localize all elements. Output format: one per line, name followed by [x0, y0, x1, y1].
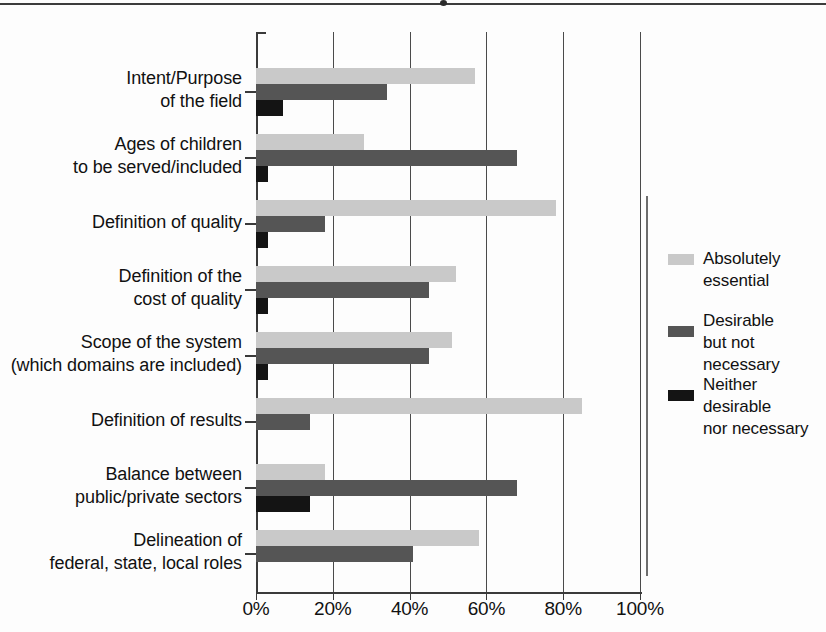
category-label: Ages of children to be served/included	[0, 133, 242, 179]
category-tick	[245, 289, 256, 291]
category-label: Definition of results	[0, 409, 242, 432]
bar	[256, 166, 268, 182]
category-tick	[245, 355, 256, 357]
x-axis-line	[256, 592, 642, 594]
bar	[256, 134, 364, 150]
horizontal-bar-chart: 0%20%40%60%80%100% Intent/Purpose of the…	[0, 0, 826, 632]
legend-label: Absolutely essential	[703, 248, 818, 292]
x-axis-tick-label: 20%	[314, 598, 351, 620]
category-tick	[245, 157, 256, 159]
category-label: Intent/Purpose of the field	[0, 67, 242, 113]
bar	[256, 496, 310, 512]
legend-swatch	[668, 326, 694, 337]
legend-divider	[646, 196, 648, 576]
bar	[256, 84, 387, 100]
bar	[256, 298, 268, 314]
category-label: Scope of the system (which domains are i…	[0, 331, 242, 377]
gridline	[640, 32, 641, 592]
bar	[256, 100, 283, 116]
bar	[256, 348, 429, 364]
bar	[256, 68, 475, 84]
bar	[256, 216, 325, 232]
bar	[256, 364, 268, 380]
bar	[256, 150, 517, 166]
category-label: Definition of quality	[0, 211, 242, 234]
x-axis-tick-label: 0%	[242, 598, 269, 620]
bar-group	[256, 266, 640, 314]
legend-entry: Desirable but not necessary	[668, 310, 818, 376]
bar	[256, 232, 268, 248]
legend-swatch	[668, 254, 694, 265]
bar	[256, 464, 325, 480]
bar	[256, 266, 456, 282]
category-label: Delineation of federal, state, local rol…	[0, 529, 242, 575]
category-label: Balance between public/private sectors	[0, 463, 242, 509]
bar-group	[256, 398, 640, 446]
page-canvas: 0%20%40%60%80%100% Intent/Purpose of the…	[0, 0, 826, 632]
x-axis-tick-label: 60%	[468, 598, 505, 620]
bar-group	[256, 200, 640, 248]
bar	[256, 546, 413, 562]
legend-entry: Absolutely essential	[668, 248, 818, 292]
category-tick	[245, 421, 256, 423]
bar	[256, 398, 582, 414]
bar-group	[256, 68, 640, 116]
x-axis-tick-label: 80%	[544, 598, 581, 620]
legend-label: Desirable but not necessary	[703, 310, 818, 376]
plot-area	[256, 32, 640, 592]
category-label: Definition of the cost of quality	[0, 265, 242, 311]
category-tick	[245, 487, 256, 489]
category-tick	[245, 553, 256, 555]
y-axis-top-cap	[256, 32, 266, 34]
bar-group	[256, 464, 640, 512]
category-tick	[245, 223, 256, 225]
bar	[256, 530, 479, 546]
legend-label: Neither desirable nor necessary	[703, 374, 818, 440]
category-tick	[245, 91, 256, 93]
bar	[256, 414, 310, 430]
legend-entry: Neither desirable nor necessary	[668, 374, 818, 440]
bar	[256, 332, 452, 348]
bar-group	[256, 332, 640, 380]
bar-group	[256, 530, 640, 578]
legend-swatch	[668, 390, 694, 401]
bar	[256, 480, 517, 496]
x-axis-tick-label: 100%	[616, 598, 664, 620]
x-axis-tick-label: 40%	[391, 598, 428, 620]
bar	[256, 282, 429, 298]
bar-group	[256, 134, 640, 182]
bar	[256, 200, 556, 216]
